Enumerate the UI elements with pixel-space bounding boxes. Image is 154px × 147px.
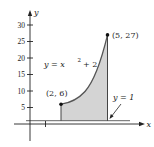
y-axis-label: y <box>33 8 39 17</box>
point-a-label: (2, 6) <box>46 89 68 98</box>
y-tick-label-15: 15 <box>18 70 26 79</box>
point-2-6 <box>59 102 63 106</box>
svg-text:y = x: y = x <box>43 60 65 69</box>
y-tick-label-30: 30 <box>18 21 26 30</box>
x-axis-label: x <box>147 120 152 129</box>
y-tick-label-5: 5 <box>21 103 25 112</box>
y-tick-label-25: 25 <box>18 37 26 46</box>
curve-equation-label: y = x 2 + 2 <box>43 57 97 69</box>
area-diagram: x y 5 10 15 20 25 30 (2, 6) (5, 27) y = … <box>0 0 154 147</box>
point-5-27 <box>106 33 110 37</box>
point-b-label: (5, 27) <box>112 31 139 40</box>
shaded-region <box>61 35 108 121</box>
line-label-arrow <box>111 104 121 117</box>
y-tick-label-10: 10 <box>18 87 26 96</box>
x-axis-arrow-icon <box>139 122 145 126</box>
y-axis-arrow-icon <box>28 10 32 16</box>
svg-text:+ 2: + 2 <box>83 60 97 69</box>
svg-text:2: 2 <box>78 57 82 63</box>
y-tick-label-20: 20 <box>18 54 26 63</box>
line-equation-label: y = 1 <box>112 93 134 102</box>
